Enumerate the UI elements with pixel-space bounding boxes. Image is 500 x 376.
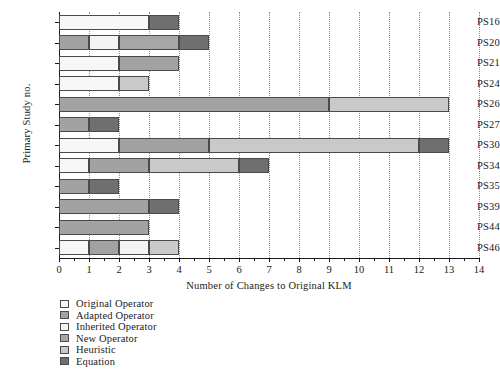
y-tick-mark — [55, 227, 59, 228]
x-tick-label-2: 2 — [107, 264, 131, 275]
x-tick-minor — [314, 258, 315, 261]
y-tick-mark — [55, 43, 59, 44]
y-tick-label-PS16: PS16 — [448, 16, 500, 27]
y-tick-mark — [55, 84, 59, 85]
bar-row — [59, 56, 479, 71]
x-tick-label-0: 0 — [47, 264, 71, 275]
legend-item: Heuristic — [60, 344, 157, 356]
bar-segment — [119, 56, 179, 71]
x-tick-minor — [404, 258, 405, 261]
x-tick-label-11: 11 — [377, 264, 401, 275]
legend-label: Heuristic — [76, 344, 116, 356]
y-tick-mark — [55, 104, 59, 105]
y-tick-label-PS39: PS39 — [448, 201, 500, 212]
bar-row — [59, 97, 479, 112]
x-tick-mark-9 — [329, 258, 330, 262]
bar-segment — [149, 199, 179, 214]
legend-label: Adapted Operator — [76, 310, 154, 322]
y-tick-mark — [55, 125, 59, 126]
bar-segment — [59, 97, 329, 112]
bar-row — [59, 76, 479, 91]
x-tick-label-5: 5 — [197, 264, 221, 275]
x-tick-mark-10 — [359, 258, 360, 262]
x-tick-minor — [344, 258, 345, 261]
x-tick-mark-5 — [209, 258, 210, 262]
legend-item: Adapted Operator — [60, 310, 157, 322]
y-tick-mark — [55, 22, 59, 23]
legend-swatch-icon — [60, 334, 69, 342]
legend-label: Inherited Operator — [76, 321, 157, 333]
y-tick-label-PS26: PS26 — [448, 98, 500, 109]
y-tick-label-PS44: PS44 — [448, 221, 500, 232]
x-tick-label-8: 8 — [287, 264, 311, 275]
bar-segment — [59, 220, 149, 235]
x-tick-mark-13 — [449, 258, 450, 262]
y-tick-label-PS24: PS24 — [448, 78, 500, 89]
x-tick-mark-1 — [89, 258, 90, 262]
legend-swatch-icon — [60, 311, 69, 319]
bar-segment — [59, 15, 149, 30]
x-tick-label-10: 10 — [347, 264, 371, 275]
x-tick-mark-11 — [389, 258, 390, 262]
x-tick-label-6: 6 — [227, 264, 251, 275]
y-tick-mark — [55, 248, 59, 249]
bar-segment — [59, 117, 89, 132]
bar-segment — [59, 179, 89, 194]
legend-item: Equation — [60, 356, 157, 368]
bar-row — [59, 199, 479, 214]
bar-segment — [89, 35, 119, 50]
bar-segment — [239, 158, 269, 173]
bar-segment — [89, 179, 119, 194]
bar-segment — [209, 138, 419, 153]
x-tick-minor — [74, 258, 75, 261]
y-tick-mark — [55, 186, 59, 187]
x-tick-mark-6 — [239, 258, 240, 262]
y-tick-label-PS30: PS30 — [448, 139, 500, 150]
y-tick-label-PS20: PS20 — [448, 37, 500, 48]
x-tick-label-9: 9 — [317, 264, 341, 275]
x-tick-minor — [434, 258, 435, 261]
legend-swatch-icon — [60, 323, 69, 331]
plot-area — [59, 12, 479, 258]
x-tick-minor — [284, 258, 285, 261]
bar-row — [59, 220, 479, 235]
x-tick-minor — [194, 258, 195, 261]
bar-segment — [119, 240, 149, 255]
bar-segment — [89, 117, 119, 132]
bar-row — [59, 179, 479, 194]
x-tick-minor — [254, 258, 255, 261]
x-tick-label-3: 3 — [137, 264, 161, 275]
x-tick-label-4: 4 — [167, 264, 191, 275]
x-tick-mark-4 — [179, 258, 180, 262]
x-tick-mark-3 — [149, 258, 150, 262]
x-tick-mark-2 — [119, 258, 120, 262]
legend-item: Inherited Operator — [60, 321, 157, 333]
bar-row — [59, 117, 479, 132]
legend-swatch-icon — [60, 346, 69, 354]
bar-segment — [59, 240, 89, 255]
y-tick-label-PS34: PS34 — [448, 160, 500, 171]
x-tick-minor — [164, 258, 165, 261]
bar-row — [59, 158, 479, 173]
bar-segment — [59, 35, 89, 50]
bar-row — [59, 35, 479, 50]
x-tick-label-13: 13 — [437, 264, 461, 275]
bar-segment — [149, 158, 239, 173]
x-tick-mark-0 — [59, 258, 60, 262]
x-tick-minor — [374, 258, 375, 261]
x-tick-minor — [134, 258, 135, 261]
x-tick-mark-7 — [269, 258, 270, 262]
y-tick-label-PS21: PS21 — [448, 57, 500, 68]
legend-item: New Operator — [60, 333, 157, 345]
bar-segment — [89, 240, 119, 255]
legend-label: Equation — [76, 356, 115, 368]
x-tick-mark-14 — [479, 258, 480, 262]
bar-segment — [149, 15, 179, 30]
bar-segment — [119, 76, 149, 91]
y-tick-label-PS27: PS27 — [448, 119, 500, 130]
y-axis-title: Primary Study no. — [21, 54, 32, 194]
legend-swatch-icon — [60, 357, 69, 365]
legend-label: Original Operator — [76, 298, 153, 310]
x-tick-mark-8 — [299, 258, 300, 262]
bar-row — [59, 15, 479, 30]
